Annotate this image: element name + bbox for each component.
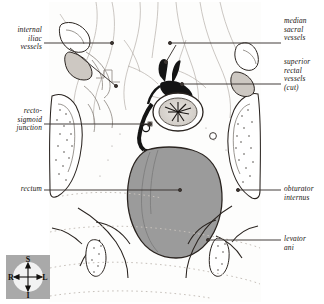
compass-label-inferior: I xyxy=(26,291,29,300)
compass-label-left: L xyxy=(42,273,47,282)
label-recto-sigmoid-junction: recto- sigmoid junction xyxy=(0,107,42,133)
label-rectum: rectum xyxy=(0,185,42,194)
cut-vessel-cross-section xyxy=(153,93,203,131)
compass-label-right: R xyxy=(8,273,14,282)
label-superior-rectal-vessels: superior rectal vessels (cut) xyxy=(284,58,324,92)
compass-label-superior: S xyxy=(26,255,31,264)
anatomical-plate: S I R L internal iliac vessels recto- si… xyxy=(0,0,324,304)
label-levator-ani: levator ani xyxy=(284,235,324,252)
label-internal-iliac-vessels: internal iliac vessels xyxy=(0,26,42,52)
label-obturator-internus: obturator internus xyxy=(284,185,324,202)
label-median-sacral-vessels: median sacral vessels xyxy=(284,17,324,43)
dissection-drawing xyxy=(49,2,261,302)
small-vessel-section xyxy=(210,133,217,140)
vessel-cut-end xyxy=(142,124,149,131)
orientation-compass: S I R L xyxy=(6,255,50,300)
illustration-canvas: S I R L xyxy=(0,0,324,304)
